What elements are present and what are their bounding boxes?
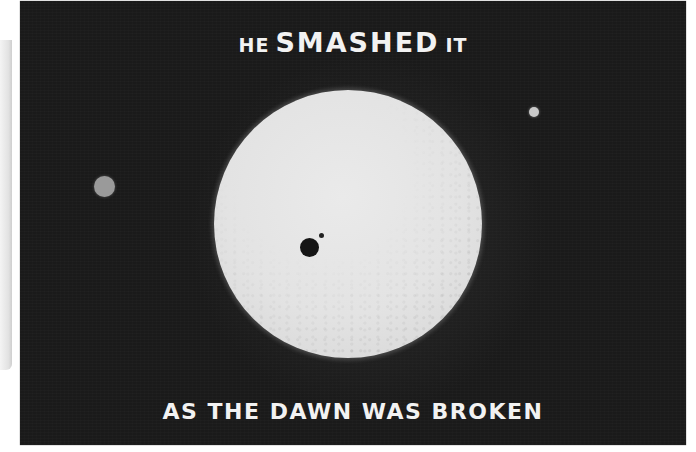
left-planet-icon (94, 176, 115, 197)
headline-suffix: IT (445, 34, 467, 56)
sun-icon (214, 90, 482, 358)
background-card-edge (0, 40, 12, 370)
sun-speckle-texture (214, 90, 482, 358)
right-planet-icon (529, 107, 539, 117)
headline: HESMASHEDIT (20, 27, 686, 58)
caption: AS THE DAWN WAS BROKEN (20, 399, 686, 424)
small-sunspot-icon (319, 233, 324, 238)
large-sunspot-icon (300, 238, 319, 257)
poster: HESMASHEDIT AS THE DAWN WAS BROKEN (20, 1, 686, 445)
headline-prefix: HE (238, 34, 269, 56)
